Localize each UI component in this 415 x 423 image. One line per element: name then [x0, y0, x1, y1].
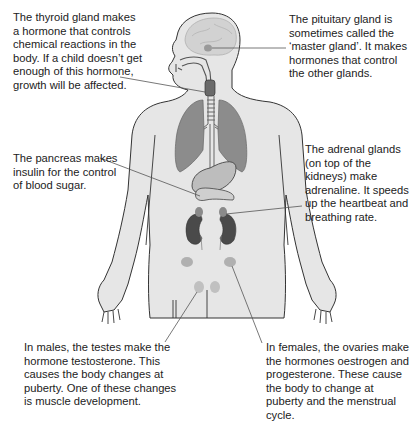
ovaries-label: In females, the ovaries make the hormone…	[266, 341, 414, 423]
pancreas-label: The pancreas makes insulin for the contr…	[13, 152, 123, 193]
testes-label: In males, the testes make the hormone te…	[24, 341, 184, 409]
pituitary-label: The pituitary gland is sometimes called …	[289, 13, 414, 81]
thyroid-label: The thyroid gland makes a hormone that c…	[13, 11, 143, 93]
adrenal-label: The adrenal glands (on top of the kidney…	[305, 143, 413, 225]
thyroid-gland	[205, 80, 215, 96]
pituitary-gland	[204, 45, 212, 52]
